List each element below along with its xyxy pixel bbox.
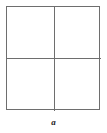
quadrant-top-left xyxy=(7,7,54,58)
figure-panel: a xyxy=(0,0,107,133)
quadrant-bottom-left xyxy=(7,59,54,111)
figure-caption: a xyxy=(0,117,107,128)
divider-horizontal-line xyxy=(7,58,101,59)
quadrant-top-right xyxy=(55,7,101,58)
quadrant-bottom-right xyxy=(55,59,101,111)
square-outline xyxy=(6,6,100,110)
